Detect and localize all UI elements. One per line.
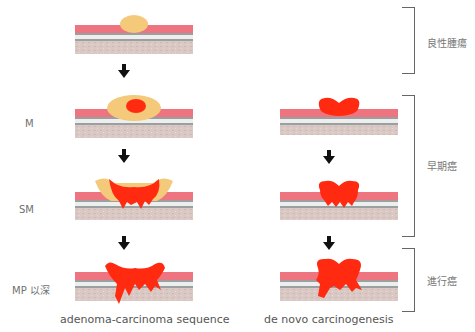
down-arrow-icon: [118, 236, 130, 250]
down-arrow-icon: [118, 64, 130, 78]
m-stage-tissue-diagram: [75, 93, 193, 138]
stage-label-early: 早期癌: [427, 158, 457, 173]
depth-label-m: M: [25, 118, 34, 129]
denovo-sm-tissue-diagram: [280, 180, 398, 220]
bracket-benign: [402, 7, 415, 74]
mp-stage-tissue-diagram: [75, 260, 193, 308]
caption-adenoma-carcinoma: adenoma-carcinoma sequence: [60, 313, 229, 326]
down-arrow-icon: [323, 150, 335, 164]
denovo-mp-tissue-diagram: [280, 258, 398, 306]
depth-label-mp: MP 以深: [12, 282, 50, 297]
sm-stage-tissue-diagram: [75, 175, 193, 220]
bracket-advanced: [402, 248, 415, 312]
depth-label-sm: SM: [19, 204, 34, 215]
down-arrow-icon: [323, 236, 335, 250]
stage-label-advanced: 進行癌: [427, 273, 457, 288]
stage-label-benign: 良性腫瘍: [427, 35, 467, 50]
down-arrow-icon: [118, 149, 130, 163]
denovo-m-tissue-diagram: [280, 95, 398, 135]
caption-de-novo: de novo carcinogenesis: [264, 313, 394, 326]
adenoma-tissue-diagram: [75, 14, 193, 54]
bracket-early: [402, 95, 415, 237]
